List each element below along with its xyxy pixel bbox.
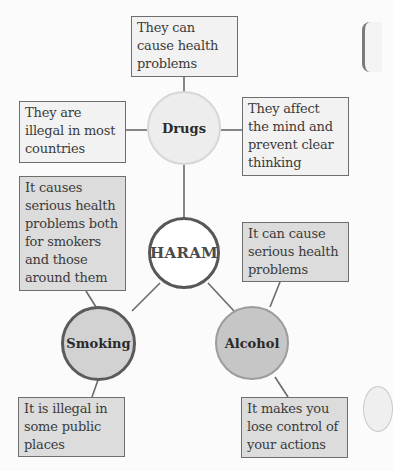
topic-label-smoking: Smoking — [66, 336, 130, 351]
fact-box-drugs-health: They can cause health problems — [131, 16, 238, 77]
topic-label-drugs: Drugs — [162, 121, 206, 136]
fact-box-drugs-illegal: They are illegal in most countries — [19, 101, 126, 163]
center-label: HARAM — [150, 244, 218, 262]
topic-node-alcohol: Alcohol — [215, 306, 289, 380]
topic-label-alcohol: Alcohol — [225, 336, 280, 351]
fact-box-smoking-illegal: It is illegal in some public places — [18, 397, 125, 457]
cropped-shape-top-right — [362, 22, 382, 72]
fact-box-smoking-health: It causes serious health problems both f… — [19, 176, 126, 291]
fact-box-drugs-mind: They affect the mind and prevent clear t… — [242, 97, 349, 176]
fact-box-alcohol-health: It can cause serious health problems — [242, 222, 349, 282]
topic-node-smoking: Smoking — [61, 306, 136, 381]
topic-node-drugs: Drugs — [147, 91, 221, 165]
fact-box-alcohol-control: It makes you lose control of your action… — [241, 397, 348, 458]
cropped-circle-bottom-right — [363, 386, 393, 432]
center-node-haram: HARAM — [148, 217, 220, 289]
